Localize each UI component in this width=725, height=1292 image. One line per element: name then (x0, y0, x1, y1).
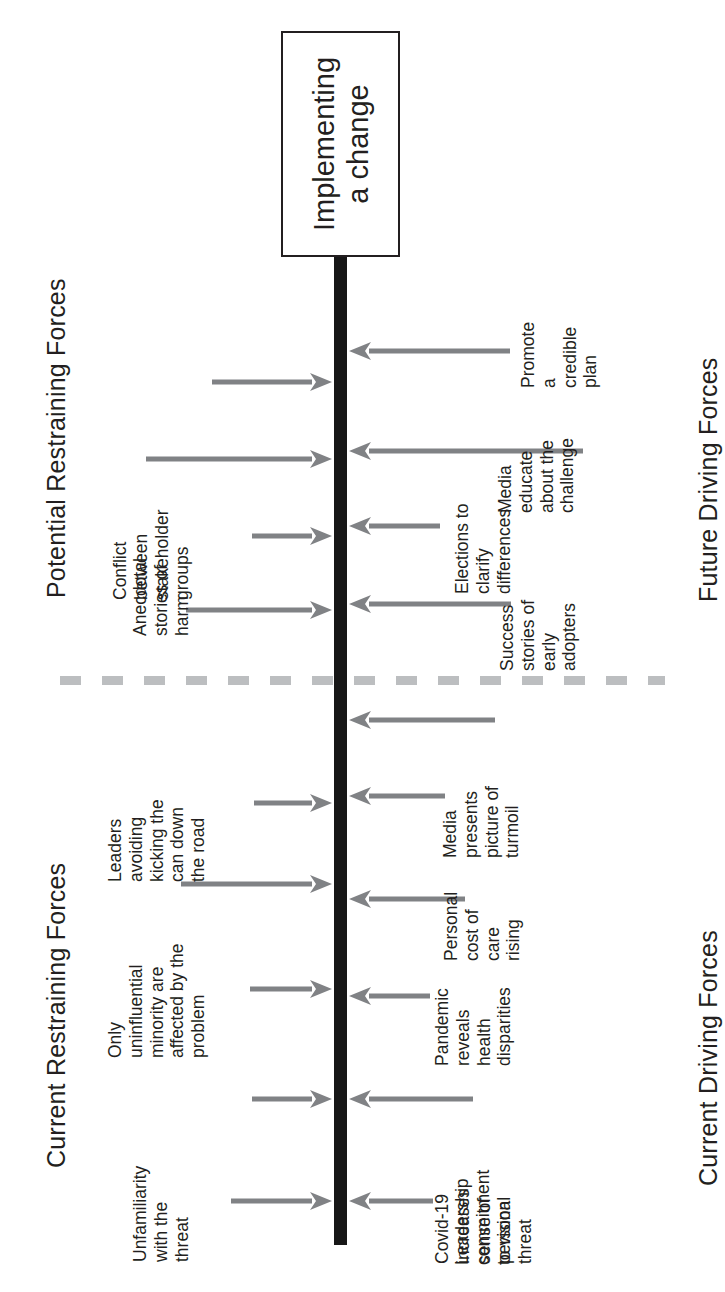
heading-potential-restraining-forces: Potential Restraining Forces (42, 278, 71, 598)
arrow-restraining-2 (146, 448, 334, 470)
restraining-force-label-5: Unfamiliarity with the threat (130, 1166, 192, 1262)
heading-current-restraining-forces: Current Restraining Forces (42, 863, 71, 1168)
implementing-a-change-label: Implementing a change (306, 57, 374, 231)
driving-force-label-3: Elections to clarify differences (452, 504, 514, 594)
arrow-restraining-5 (254, 792, 334, 814)
arrow-restraining-7 (250, 978, 334, 1000)
restraining-force-label-3: Leaders avoiding kicking the can down th… (105, 799, 209, 882)
restraining-force-label-2: Anecdotal stories of harm (130, 558, 192, 636)
change-box-line1: Implementing (307, 57, 339, 231)
arrow-restraining-4 (186, 599, 334, 621)
arrow-restraining-1 (212, 371, 334, 393)
arrow-driving-10 (347, 1190, 433, 1212)
change-box-line2: a change (342, 84, 374, 203)
arrow-driving-8 (347, 985, 430, 1007)
arrow-driving-5 (347, 709, 495, 731)
arrow-driving-6 (347, 785, 445, 807)
arrow-driving-1 (347, 340, 510, 362)
force-field-diagram: Potential Restraining Forces Current Res… (0, 0, 725, 1292)
arrow-restraining-9 (231, 1190, 334, 1212)
arrow-driving-9 (347, 1088, 473, 1110)
arrow-driving-3 (347, 515, 440, 537)
heading-future-driving-forces: Future Driving Forces (694, 357, 723, 602)
arrow-restraining-8 (252, 1088, 334, 1110)
arrow-restraining-3 (252, 525, 334, 547)
driving-force-label-2: Media educate about the challenge (495, 438, 578, 513)
implementing-a-change-box: Implementing a change (281, 31, 400, 257)
heading-current-driving-forces: Current Driving Forces (694, 930, 723, 1186)
driving-force-label-7: Pandemic reveals health disparities (432, 987, 515, 1066)
driving-force-label-5: Media presents picture of turmoil (440, 786, 523, 858)
central-spine-bar (334, 255, 347, 1245)
restraining-force-label-4: Only uninfluential minority are affected… (105, 944, 209, 1059)
driving-force-label-1: Promote a credible plan (518, 322, 601, 388)
driving-force-label-4: Success stories of early adopters (497, 600, 580, 671)
arrow-driving-4 (347, 593, 511, 615)
current-future-divider (60, 676, 665, 685)
driving-force-label-9: Leadership commitment to vision (452, 1170, 514, 1265)
driving-force-label-6: Personal cost of care rising (441, 892, 524, 961)
